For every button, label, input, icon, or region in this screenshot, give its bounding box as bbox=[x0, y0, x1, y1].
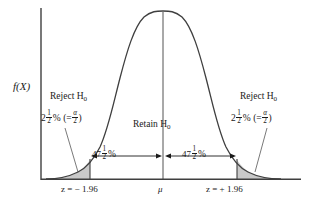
left-critical-value-label: z = − 1.96 bbox=[61, 184, 98, 194]
right-body-fraction: 12 bbox=[192, 146, 198, 161]
right-body-percent-label: 4712% bbox=[182, 146, 206, 161]
left-reject-subscript: 0 bbox=[84, 95, 88, 103]
right-leader-line bbox=[255, 128, 267, 172]
right-tail-percent-label: 212% (=α2) bbox=[231, 110, 272, 125]
left-reject-label: Reject H0 bbox=[50, 91, 87, 103]
left-body-fraction: 12 bbox=[102, 146, 108, 161]
right-reject-subscript: 0 bbox=[274, 95, 278, 103]
right-reject-label: Reject H0 bbox=[240, 91, 277, 103]
left-body-percent-label: 4712% bbox=[92, 146, 116, 161]
left-leader-line bbox=[65, 128, 78, 172]
retain-subscript: 0 bbox=[167, 123, 171, 131]
normal-distribution-figure: f(X) Reject H0 212% (=α2) Reject H0 212%… bbox=[0, 0, 329, 205]
left-tail-percent-label: 212% (=α2) bbox=[41, 110, 82, 125]
y-axis-label: f(X) bbox=[13, 80, 30, 92]
right-half-fraction: 12 bbox=[236, 110, 242, 125]
right-alpha-fraction: α2 bbox=[262, 110, 268, 125]
retain-label: Retain H0 bbox=[133, 119, 171, 131]
left-alpha-fraction: α2 bbox=[72, 110, 78, 125]
left-half-fraction: 12 bbox=[46, 110, 52, 125]
mean-label: μ bbox=[158, 184, 163, 194]
right-critical-value-label: z = + 1.96 bbox=[206, 184, 243, 194]
